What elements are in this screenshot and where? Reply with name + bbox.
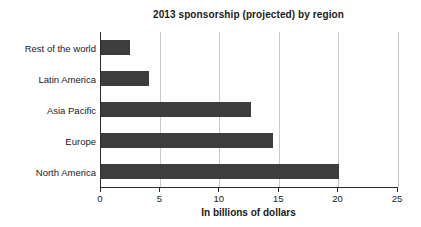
category-label: Asia Pacific — [0, 104, 96, 115]
tick-label: 10 — [214, 193, 225, 204]
bar-rest-of-the-world — [101, 40, 130, 55]
category-label: North America — [0, 166, 96, 177]
tick-label: 0 — [97, 193, 102, 204]
bar-asia-pacific — [101, 102, 251, 117]
tick-mark — [337, 188, 338, 192]
value-axis-title: In billions of dollars — [100, 207, 397, 218]
category-axis-labels: Rest of the worldLatin AmericaAsia Pacif… — [0, 32, 96, 187]
bar-chart: 2013 sponsorship (projected) by region R… — [0, 0, 421, 227]
tick-label: 20 — [332, 193, 343, 204]
bar-latin-america — [101, 71, 149, 86]
bar-north-america — [101, 164, 339, 179]
tick-label: 5 — [157, 193, 162, 204]
tick-label: 15 — [273, 193, 284, 204]
tick-mark — [159, 188, 160, 192]
category-label: Europe — [0, 135, 96, 146]
gridline — [398, 32, 399, 187]
plot-area — [100, 32, 398, 188]
tick-mark — [218, 188, 219, 192]
tick-mark — [278, 188, 279, 192]
bar-europe — [101, 133, 273, 148]
tick-mark — [100, 188, 101, 192]
tick-label: 25 — [392, 193, 403, 204]
tick-mark — [397, 188, 398, 192]
chart-title: 2013 sponsorship (projected) by region — [100, 9, 397, 20]
category-label: Rest of the world — [0, 42, 96, 53]
value-axis-ticks: 0510152025 — [100, 188, 397, 206]
category-label: Latin America — [0, 73, 96, 84]
